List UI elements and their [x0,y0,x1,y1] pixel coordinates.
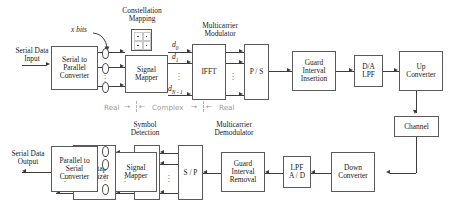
block-da-lpf[interactable]: D/A LPF [354,55,383,87]
ofdm-transceiver-diagram: Serial Data Input Serial to Parallel Con… [0,0,453,212]
multicarrier-modulator-label: Multicarrier Modulator [183,22,257,39]
channel-to-downconv-v [416,137,417,173]
mapper-to-ifft-arrow-0-icon [187,49,191,53]
constellation-mapping-label: Constellation Mapping [104,7,180,24]
mapper-to-ifft-vertical-dots: ... [175,70,183,80]
serial-data-input-label: Serial Data Input [8,47,56,64]
ifft-to-ps-arrow-2-icon [239,92,243,96]
sp-to-fft-arrow-1-icon [160,161,164,165]
domain-real-right-label: Real [219,103,235,112]
signal-label-d1: d1 [172,52,179,63]
upconv-to-channel-arrow-icon [413,110,417,114]
fft-to-eq-vertical-dots: ... [121,172,129,182]
channel-to-downconv-h [390,173,416,174]
domain-complex-label: Complex [152,103,184,112]
mapperrx-to-ps-vertical-dots: ... [101,171,109,181]
domain-real-left-label: Real [104,103,120,112]
symbol-detection-label: Symbol Detection [112,121,178,138]
domain-arrow-right-2: → [191,102,197,111]
signal-label-d0: d0 [172,40,179,51]
block-guard-interval-removal[interactable]: Guard Interval Removal [221,152,265,192]
ps-to-guard-arrow-icon [287,68,291,72]
downconv-to-lpfad-arrow-icon [311,170,315,174]
block-signal-mapper-tx[interactable]: Signal Mapper [125,55,168,93]
output-arrow-icon [22,169,26,173]
block-ifft[interactable]: IFFT [192,44,226,100]
sp-to-mapper-arrow-0-icon [120,49,124,53]
sp-to-fft-arrow-0-icon [160,150,164,154]
ifft-to-ps-vertical-dots: ... [229,70,237,80]
sp-to-fft-arrow-2-icon [160,190,164,194]
sp-to-fft-vertical-dots: ... [165,172,173,182]
dalpf-to-upconv-arrow-icon [394,68,398,72]
block-guard-interval-insertion[interactable]: Guard Interval Insertion [292,51,336,91]
sp-to-mapper-vertical-dots: ... [101,72,109,82]
eq-to-mapper-vertical-dots: ... [61,172,69,182]
bit-bundle-marker-rx-2 [102,184,109,195]
input-line [22,65,46,66]
domain-arrow-right-1: → [124,102,130,111]
constellation-mapping-icon [131,29,152,51]
signal-label-dn: dN - 1 [168,84,183,95]
mapper-to-ifft-arrow-1-icon [187,60,191,64]
output-line [22,172,51,173]
domain-divider-2 [203,101,204,112]
bit-bundle-marker-0 [102,48,109,59]
block-down-converter[interactable]: Down Converter [331,152,375,192]
guard-to-dalpf-arrow-icon [349,68,353,72]
bit-bundle-marker-rx-0 [102,146,109,157]
domain-arrow-left-1: ← [139,102,145,111]
guardremoval-to-sp-arrow-icon [203,170,207,174]
domain-divider-1 [136,101,137,112]
block-serial-to-parallel-rx[interactable]: S / P [178,145,203,200]
x-bits-label: x bits [62,26,96,34]
sp-to-mapper-arrow-2-icon [120,83,124,87]
domain-arrow-left-2: ← [206,102,212,111]
ifft-to-ps-arrow-1-icon [239,60,243,64]
ifft-to-ps-arrow-0-icon [239,49,243,53]
block-parallel-to-serial[interactable]: P / S [244,44,269,100]
block-up-converter[interactable]: Up Converter [399,51,443,91]
block-lpf-ad[interactable]: LPF A / D [283,156,311,188]
block-serial-to-parallel-converter[interactable]: Serial to Parallel Converter [51,46,98,90]
lpfad-to-guardremoval-arrow-icon [265,170,269,174]
channel-to-downconv-arrow-icon [386,170,390,174]
block-channel[interactable]: Channel [394,116,439,137]
serial-data-output-label: Serial Data Output [4,150,52,167]
mapper-to-ifft-arrow-2-icon [187,92,191,96]
block-parallel-to-serial-converter[interactable]: Parallel to Serial Converter [51,146,98,192]
sp-to-mapper-arrow-1-icon [120,64,124,68]
multicarrier-demodulator-label: Multicarrier Demodulator [196,121,272,138]
